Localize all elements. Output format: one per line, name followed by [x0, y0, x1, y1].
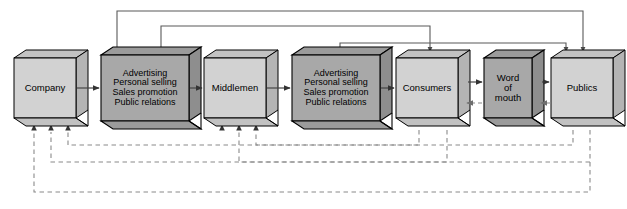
bottom-route-consumers-to-company — [51, 130, 447, 162]
node-promotion-block-2[interactable] — [292, 47, 392, 129]
diagram-canvas — [0, 0, 627, 209]
bottom-route-publics-to-company — [68, 130, 573, 145]
node-consumers[interactable] — [396, 50, 470, 126]
marketing-flow-diagram: Company Advertising Personal selling Sal… — [0, 0, 627, 209]
bottom-route-consumers-to-middlemen — [256, 130, 419, 145]
node-publics[interactable] — [551, 50, 625, 126]
node-promotion-block-1[interactable] — [101, 47, 201, 129]
node-word-of-mouth[interactable] — [484, 50, 544, 126]
node-company[interactable] — [14, 50, 88, 126]
node-middlemen[interactable] — [204, 50, 278, 126]
bottom-route-publics-to-middlemen — [239, 130, 590, 162]
